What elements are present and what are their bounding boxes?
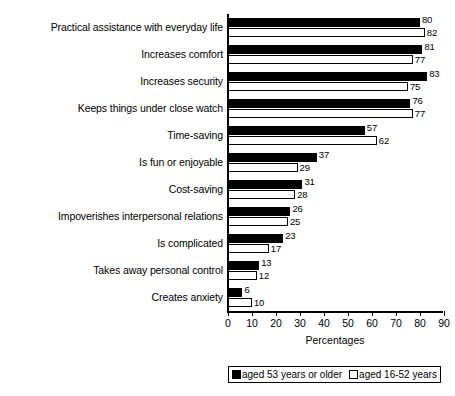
bar-group: 2317	[228, 230, 455, 257]
bar-value-label: 77	[415, 55, 425, 64]
category-label: Increases comfort	[141, 41, 223, 68]
bar-younger	[228, 55, 413, 64]
bar-value-label: 83	[429, 69, 439, 78]
x-tick	[372, 311, 373, 316]
bar-older	[228, 234, 283, 243]
bar-value-label: 28	[297, 190, 307, 199]
bar-group: 3729	[228, 149, 455, 176]
category-label: Takes away personal control	[93, 257, 223, 284]
category-row: Takes away personal control1312	[0, 257, 455, 284]
bar-younger	[228, 190, 295, 199]
category-rows: Practical assistance with everyday life8…	[0, 14, 455, 311]
bar-younger	[228, 136, 377, 145]
bar-value-label: 13	[261, 258, 271, 267]
bar-younger	[228, 82, 408, 91]
bar-value-label: 6	[244, 285, 249, 294]
bar-value-label: 75	[410, 82, 420, 91]
category-row: Practical assistance with everyday life8…	[0, 14, 455, 41]
x-tick-label: 50	[342, 317, 354, 330]
category-row: Is fun or enjoyable3729	[0, 149, 455, 176]
x-tick-label: 90	[438, 317, 450, 330]
bar-younger	[228, 28, 425, 37]
bar-value-label: 25	[290, 217, 300, 226]
bar-older	[228, 207, 290, 216]
bar-value-label: 26	[292, 204, 302, 213]
bar-older	[228, 153, 317, 162]
x-tick	[252, 311, 253, 316]
category-label: Is complicated	[157, 230, 223, 257]
x-tick-label: 80	[414, 317, 426, 330]
x-tick-label: 30	[294, 317, 306, 330]
category-row: Increases security8375	[0, 68, 455, 95]
x-tick	[324, 311, 325, 316]
bar-older	[228, 72, 427, 81]
category-label: Cost-saving	[169, 176, 223, 203]
category-label: Practical assistance with everyday life	[51, 14, 223, 41]
x-tick	[396, 311, 397, 316]
bar-value-label: 62	[379, 136, 389, 145]
x-tick-label: 20	[270, 317, 282, 330]
bar-value-label: 76	[412, 96, 422, 105]
plot-area: Practical assistance with everyday life8…	[0, 14, 455, 314]
bar-value-label: 81	[424, 42, 434, 51]
category-label: Is fun or enjoyable	[139, 149, 223, 176]
bar-group: 2625	[228, 203, 455, 230]
bar-chart: Practical assistance with everyday life8…	[0, 0, 455, 396]
bar-older	[228, 180, 302, 189]
bar-younger	[228, 244, 269, 253]
x-tick	[348, 311, 349, 316]
x-tick-label: 70	[390, 317, 402, 330]
x-tick	[300, 311, 301, 316]
bar-value-label: 17	[271, 244, 281, 253]
category-row: Time-saving5762	[0, 122, 455, 149]
bar-older	[228, 99, 410, 108]
bar-value-label: 12	[259, 271, 269, 280]
category-label: Time-saving	[167, 122, 223, 149]
legend-item: aged 53 years or older	[232, 369, 342, 380]
bar-younger	[228, 109, 413, 118]
bar-group: 610	[228, 284, 455, 311]
bar-younger	[228, 163, 298, 172]
x-tick-label: 0	[225, 317, 231, 330]
bar-value-label: 31	[304, 177, 314, 186]
bar-older	[228, 126, 365, 135]
chart-legend: aged 53 years or olderaged 16-52 years	[228, 366, 441, 383]
bar-value-label: 77	[415, 109, 425, 118]
bar-value-label: 10	[254, 298, 264, 307]
bar-value-label: 29	[300, 163, 310, 172]
bar-group: 1312	[228, 257, 455, 284]
legend-swatch-hollow	[349, 370, 358, 379]
x-tick	[228, 311, 229, 316]
category-row: Cost-saving3128	[0, 176, 455, 203]
category-label: Impoverishes interpersonal relations	[58, 203, 223, 230]
bar-value-label: 23	[285, 231, 295, 240]
bar-group: 8177	[228, 41, 455, 68]
x-axis-line	[227, 311, 443, 313]
bar-group: 7677	[228, 95, 455, 122]
category-row: Creates anxiety610	[0, 284, 455, 311]
bar-value-label: 57	[367, 123, 377, 132]
legend-label: aged 16-52 years	[359, 369, 437, 380]
x-tick-label: 40	[318, 317, 330, 330]
bar-older	[228, 18, 420, 27]
x-tick	[444, 311, 445, 316]
category-row: Impoverishes interpersonal relations2625	[0, 203, 455, 230]
bar-older	[228, 288, 242, 297]
legend-label: aged 53 years or older	[242, 369, 342, 380]
bar-younger	[228, 271, 257, 280]
category-row: Increases comfort8177	[0, 41, 455, 68]
bar-younger	[228, 217, 288, 226]
bar-group: 3128	[228, 176, 455, 203]
bar-value-label: 82	[427, 28, 437, 37]
x-tick	[420, 311, 421, 316]
category-row: Keeps things under close watch7677	[0, 95, 455, 122]
x-tick	[276, 311, 277, 316]
x-axis-title: Percentages	[227, 334, 443, 346]
bar-value-label: 80	[422, 15, 432, 24]
x-tick-label: 10	[246, 317, 258, 330]
bar-group: 8082	[228, 14, 455, 41]
bar-older	[228, 45, 422, 54]
category-label: Creates anxiety	[152, 284, 223, 311]
x-tick-label: 60	[366, 317, 378, 330]
bar-value-label: 37	[319, 150, 329, 159]
